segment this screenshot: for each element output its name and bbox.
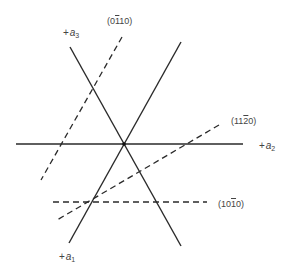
plane-1120-label: (1120) — [231, 117, 256, 126]
text-part: 0) — [236, 199, 244, 209]
origin-point — [122, 142, 126, 146]
text-part: (10 — [218, 199, 231, 209]
axis-a1-label: + a1 — [59, 252, 75, 263]
plane-1120-line — [57, 125, 219, 220]
sign: + — [59, 251, 65, 262]
text-part: (0 — [107, 16, 115, 26]
sign: + — [63, 27, 69, 38]
text-part: 10) — [119, 16, 132, 26]
plane-0110-label: (0110) — [107, 17, 132, 26]
axis-a3-label: + a3 — [63, 28, 79, 39]
axis-a2-label: + a2 — [259, 141, 275, 152]
subscript: 3 — [75, 32, 79, 39]
subscript: 2 — [271, 145, 275, 152]
plane-0110-line — [41, 37, 122, 180]
plane-1010-label: (1010) — [218, 200, 244, 209]
text-part: 0) — [248, 116, 256, 126]
axis-a1-line — [69, 42, 181, 243]
sign: + — [259, 140, 265, 151]
subscript: 1 — [71, 256, 75, 263]
axis-a3-line — [70, 47, 181, 246]
diagram-canvas — [0, 0, 285, 272]
text-part: (11 — [231, 116, 243, 126]
